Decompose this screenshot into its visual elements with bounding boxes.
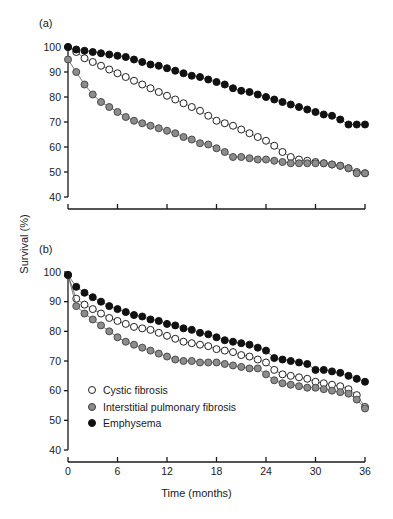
data-point-marker (147, 347, 154, 354)
data-point-marker (230, 362, 237, 369)
data-point-marker (362, 405, 369, 412)
data-point-marker (172, 67, 179, 74)
data-point-marker (304, 384, 311, 391)
data-point-marker (230, 349, 237, 356)
open-circle-marker-icon (88, 386, 96, 394)
legend-item: Cystic fibrosis (88, 382, 236, 399)
data-point-marker (337, 116, 344, 123)
data-point-marker (296, 104, 303, 111)
data-point-marker (238, 340, 245, 347)
data-point-marker (345, 121, 352, 128)
data-point-marker (114, 317, 121, 324)
y-axis-tick-label: 60 (49, 384, 61, 396)
y-axis-tick-label: 50 (49, 414, 61, 426)
x-axis-tick-label: 24 (260, 465, 272, 477)
y-axis-title: Survival (%) (18, 184, 30, 304)
data-point-marker (131, 77, 138, 84)
data-point-marker (139, 59, 146, 66)
data-point-marker (345, 165, 352, 172)
data-point-marker (122, 338, 129, 345)
data-point-marker (263, 156, 270, 163)
data-point-marker (238, 87, 245, 94)
data-point-marker (205, 112, 212, 119)
data-point-marker (213, 359, 220, 366)
data-point-marker (180, 358, 187, 365)
data-point-marker (312, 160, 319, 167)
data-point-marker (98, 298, 105, 305)
data-point-marker (131, 312, 138, 319)
legend-item-label: Interstitial pulmonary fibrosis (103, 399, 236, 416)
data-point-marker (98, 99, 105, 106)
data-point-marker (221, 81, 228, 88)
y-axis-tick-label: 40 (49, 191, 61, 203)
data-point-marker (230, 338, 237, 345)
data-point-marker (287, 381, 294, 388)
data-point-marker (164, 353, 171, 360)
data-point-marker (279, 99, 286, 106)
data-point-marker (230, 122, 237, 129)
data-point-marker (81, 289, 88, 296)
data-point-marker (131, 323, 138, 330)
data-point-marker (271, 355, 278, 362)
data-point-marker (188, 136, 195, 143)
data-point-marker (114, 52, 121, 59)
data-point-marker (221, 360, 228, 367)
data-point-marker (106, 51, 113, 58)
data-point-marker (172, 96, 179, 103)
data-point-marker (320, 366, 327, 373)
data-point-marker (164, 320, 171, 327)
data-point-marker (73, 303, 80, 310)
data-point-marker (304, 106, 311, 113)
data-point-marker (246, 130, 253, 137)
data-point-marker (271, 377, 278, 384)
data-point-marker (122, 114, 129, 121)
y-axis-tick-label: 90 (49, 295, 61, 307)
y-axis-tick-label: 60 (49, 141, 61, 153)
panel-a-label: (a) (39, 17, 52, 29)
data-point-marker (213, 145, 220, 152)
data-point-marker (172, 322, 179, 329)
data-point-marker (98, 310, 105, 317)
data-point-marker (238, 154, 245, 161)
data-point-marker (106, 303, 113, 310)
data-point-marker (98, 62, 105, 69)
data-point-marker (296, 160, 303, 167)
y-axis-tick-label: 70 (49, 355, 61, 367)
data-point-marker (230, 85, 237, 92)
data-point-marker (188, 104, 195, 111)
data-point-marker (221, 337, 228, 344)
data-point-marker (172, 335, 179, 342)
data-point-marker (89, 306, 96, 313)
panel-a: 405060708090100 (43, 41, 368, 209)
data-point-marker (197, 329, 204, 336)
data-point-marker (287, 358, 294, 365)
data-point-marker (155, 329, 162, 336)
data-point-marker (89, 316, 96, 323)
data-point-marker (106, 314, 113, 321)
data-point-marker (205, 331, 212, 338)
data-point-marker (106, 104, 113, 111)
data-point-marker (353, 170, 360, 177)
data-point-marker (164, 65, 171, 72)
data-point-marker (65, 56, 72, 63)
data-point-marker (337, 389, 344, 396)
data-point-marker (287, 372, 294, 379)
data-point-marker (197, 107, 204, 114)
data-point-marker (304, 375, 311, 382)
data-point-marker (320, 111, 327, 118)
data-point-marker (238, 363, 245, 370)
series-emphysema (65, 44, 369, 129)
data-point-marker (188, 326, 195, 333)
data-point-marker (205, 141, 212, 148)
data-point-marker (188, 72, 195, 79)
data-point-marker (81, 310, 88, 317)
data-point-marker (147, 61, 154, 68)
data-point-marker (98, 50, 105, 57)
legend-item-label: Emphysema (103, 415, 161, 432)
data-point-marker (98, 322, 105, 329)
y-axis-tick-label: 70 (49, 116, 61, 128)
data-point-marker (122, 54, 129, 61)
data-point-marker (263, 347, 270, 354)
x-axis-tick-label: 18 (211, 465, 223, 477)
data-point-marker (238, 352, 245, 359)
